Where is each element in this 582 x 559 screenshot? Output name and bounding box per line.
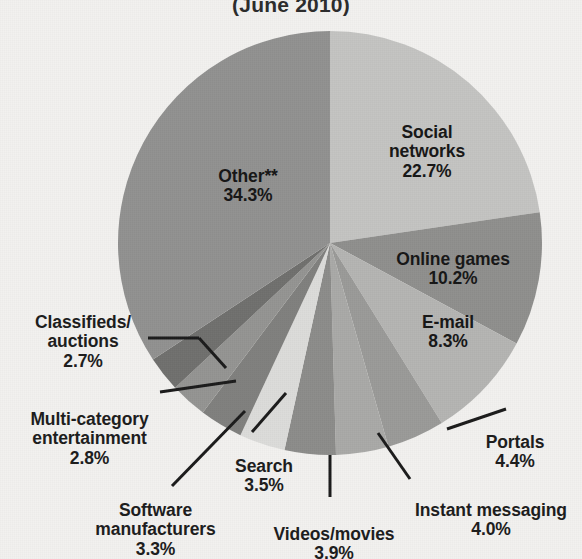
pie-label-other-value: 34.3% (172, 186, 324, 206)
pie-label-videos-movies: Videos/movies 3.9% (258, 505, 410, 559)
pie-label-email-value: 8.3% (393, 332, 503, 352)
pie-label-online-games-name: Online games (396, 249, 510, 269)
pie-label-instant-messaging-name: Instant messaging (415, 500, 567, 520)
pie-label-email-name: E-mail (422, 312, 474, 332)
pie-label-videos-movies-value: 3.9% (258, 544, 410, 559)
pie-label-portals-value: 4.4% (455, 452, 575, 472)
pie-label-classifieds-auctions-value: 2.7% (4, 352, 162, 372)
pie-label-classifieds-auctions: Classifieds/ auctions 2.7% (4, 293, 162, 391)
pie-label-portals: Portals 4.4% (455, 413, 575, 491)
pie-label-instant-messaging-value: 4.0% (400, 520, 582, 540)
pie-label-software-manufacturers-name: Software manufacturers (95, 500, 215, 540)
pie-label-multi-category-entertainment-name: Multi-category entertainment (30, 409, 148, 449)
pie-label-videos-movies-name: Videos/movies (274, 524, 395, 544)
pie-label-multi-category-entertainment: Multi-category entertainment 2.8% (2, 390, 177, 488)
pie-label-portals-name: Portals (486, 432, 545, 452)
pie-label-social-networks-value: 22.7% (352, 162, 502, 182)
pie-label-other: Other** 34.3% (172, 147, 324, 225)
pie-label-instant-messaging: Instant messaging 4.0% (400, 481, 582, 559)
pie-label-software-manufacturers-value: 3.3% (68, 540, 243, 559)
pie-label-email: E-mail 8.3% (393, 293, 503, 371)
pie-label-social-networks: Social networks 22.7% (352, 103, 502, 201)
pie-label-classifieds-auctions-name: Classifieds/ auctions (35, 312, 131, 352)
pie-label-search-name: Search (235, 456, 293, 476)
pie-label-multi-category-entertainment-value: 2.8% (2, 449, 177, 469)
pie-label-search-value: 3.5% (212, 476, 316, 496)
pie-label-other-name: Other** (218, 166, 278, 186)
pie-label-online-games-value: 10.2% (373, 269, 533, 289)
pie-label-social-networks-name: Social networks (389, 122, 465, 162)
pie-chart-figure: (June 2010) Social networks 22.7% Online… (0, 0, 582, 559)
pie-label-search: Search 3.5% (212, 437, 316, 515)
